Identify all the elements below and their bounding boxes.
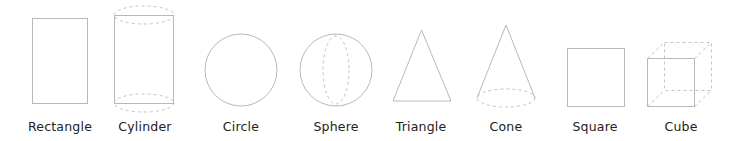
rectangle-icon (33, 19, 88, 104)
triangle-icon (393, 30, 451, 101)
cylinder-label: Cylinder (100, 119, 190, 134)
circle-label: Circle (196, 119, 286, 134)
cube-icon (648, 43, 712, 107)
cone-icon (477, 25, 535, 107)
cone-label: Cone (461, 119, 551, 134)
triangle-label: Triangle (376, 119, 466, 134)
cylinder-icon (114, 6, 174, 112)
rectangle-label: Rectangle (15, 119, 105, 134)
square-icon (568, 49, 625, 107)
cube-label: Cube (636, 119, 726, 134)
circle-icon (205, 34, 277, 106)
sphere-icon (300, 34, 372, 106)
square-label: Square (550, 119, 640, 134)
sphere-label: Sphere (291, 119, 381, 134)
